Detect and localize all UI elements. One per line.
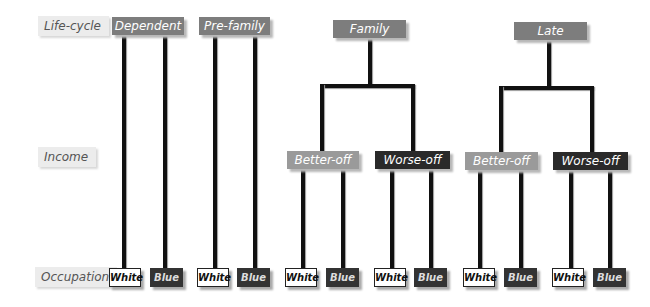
connector-line [253,35,257,268]
leaf-white: White [552,268,584,287]
node-family-worse-off: Worse-off [375,151,450,169]
node-late: Late [514,22,587,40]
connector-line [390,169,394,268]
connector-line [429,169,433,268]
leaf-white: White [285,268,317,287]
connector-line [519,170,523,268]
connector-line [569,170,573,268]
leaf-white: White [197,268,229,287]
node-late-worse-off: Worse-off [553,152,628,170]
row-label-occupation: Occupation [35,267,117,287]
row-label-income: Income [38,147,96,167]
leaf-blue: Blue [593,268,626,287]
connector-line [301,169,305,268]
connector-line [320,84,324,152]
connector-line [478,170,482,268]
leaf-blue: Blue [326,268,359,287]
connector-line [163,35,167,268]
connector-line [411,84,415,152]
leaf-blue: Blue [150,268,183,287]
leaf-blue: Blue [504,268,537,287]
leaf-white: White [463,268,495,287]
segmentation-tree-diagram: Life-cycle Income Occupation Dependent P… [0,0,650,307]
leaf-white: White [374,268,406,287]
node-late-better-off: Better-off [465,152,538,170]
connector-line [547,40,551,88]
connector-line [341,169,345,268]
node-pre-family: Pre-family [199,17,270,35]
connector-line [590,86,594,153]
node-family-better-off: Better-off [287,151,359,169]
connector-line [499,86,503,153]
connector-line [368,38,372,86]
connector-line [499,86,594,90]
leaf-blue: Blue [414,268,447,287]
row-label-lifecycle: Life-cycle [38,16,109,36]
connector-line [122,35,126,268]
connector-line [320,84,415,88]
connector-line [608,170,612,268]
node-dependent: Dependent [112,17,184,35]
node-family: Family [333,20,406,38]
connector-line [213,35,217,268]
leaf-blue: Blue [237,268,270,287]
leaf-white: White [109,268,141,287]
